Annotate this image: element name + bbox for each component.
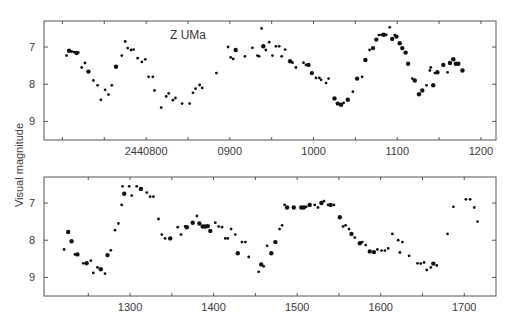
- data-point: [280, 55, 283, 58]
- data-point: [261, 44, 265, 48]
- bottom-data-points: [63, 185, 479, 275]
- data-point: [147, 75, 150, 78]
- data-point: [406, 62, 410, 66]
- data-point: [266, 244, 269, 247]
- data-point: [86, 69, 90, 73]
- data-point: [164, 237, 167, 240]
- data-point: [448, 61, 452, 65]
- data-point: [257, 270, 260, 273]
- data-point: [325, 82, 328, 85]
- data-point: [141, 61, 144, 64]
- data-point: [160, 233, 163, 236]
- data-point: [284, 48, 287, 51]
- data-point: [305, 205, 308, 208]
- data-point: [317, 206, 320, 209]
- data-point: [401, 241, 404, 244]
- data-point: [104, 272, 107, 275]
- data-point: [353, 236, 356, 239]
- bottom-panel: 13001400150016001700789: [29, 177, 496, 313]
- data-point: [105, 253, 109, 257]
- data-point: [139, 187, 143, 191]
- light-curve-chart: Visual magnitude Z UMa 24408000900100011…: [0, 0, 512, 325]
- data-point: [100, 98, 103, 101]
- data-point: [348, 228, 351, 231]
- data-point: [229, 56, 232, 59]
- data-point: [167, 92, 170, 95]
- data-point: [397, 239, 400, 242]
- data-point: [342, 225, 345, 228]
- data-point: [342, 101, 345, 104]
- data-point: [371, 46, 375, 50]
- x-tick-label: 1400: [201, 301, 225, 313]
- data-point: [349, 232, 353, 236]
- data-point: [465, 198, 468, 201]
- data-point: [241, 241, 244, 244]
- data-point: [431, 83, 435, 87]
- data-point: [377, 34, 380, 37]
- data-point: [355, 76, 359, 80]
- data-point: [283, 204, 286, 207]
- data-point: [278, 228, 281, 231]
- data-point: [469, 198, 472, 201]
- data-point: [114, 229, 117, 232]
- y-tick-label: 8: [29, 78, 35, 90]
- data-point: [188, 102, 191, 105]
- data-point: [435, 264, 438, 267]
- data-point: [194, 87, 197, 90]
- data-point: [380, 249, 383, 252]
- data-point: [376, 248, 379, 251]
- data-point: [226, 237, 229, 240]
- data-point: [385, 33, 388, 36]
- data-point: [151, 75, 154, 78]
- data-point: [372, 250, 376, 254]
- data-point: [221, 226, 224, 229]
- data-point: [258, 55, 261, 58]
- data-point: [344, 224, 347, 227]
- data-point: [107, 93, 110, 96]
- x-tick-label: 1200: [469, 145, 493, 157]
- data-point: [181, 102, 184, 105]
- data-point: [419, 262, 422, 265]
- data-point: [157, 218, 160, 221]
- x-tick-label: 1000: [301, 145, 325, 157]
- data-point: [333, 204, 336, 207]
- data-point: [476, 220, 479, 223]
- data-point: [269, 251, 273, 255]
- data-point: [417, 92, 421, 96]
- data-point: [191, 221, 195, 225]
- data-point: [234, 48, 238, 52]
- data-point: [104, 88, 107, 91]
- data-point: [452, 205, 455, 208]
- data-point: [271, 54, 274, 57]
- data-point: [114, 65, 118, 69]
- data-point: [185, 225, 189, 229]
- data-point: [313, 204, 316, 207]
- data-point: [122, 192, 126, 196]
- data-point: [391, 233, 394, 236]
- data-point: [364, 244, 367, 247]
- data-point: [136, 57, 139, 60]
- data-point: [196, 215, 199, 218]
- y-tick-label: 9: [29, 271, 35, 283]
- data-point: [120, 54, 123, 57]
- data-point: [262, 265, 265, 268]
- data-point: [320, 78, 323, 81]
- data-point: [291, 61, 294, 64]
- data-point: [174, 97, 177, 100]
- data-point: [84, 62, 87, 65]
- data-point: [109, 249, 112, 252]
- data-point: [361, 75, 364, 78]
- data-point: [135, 185, 138, 188]
- data-point: [227, 46, 230, 49]
- data-point: [70, 50, 73, 53]
- y-axis-label: Visual magnitude: [13, 123, 25, 207]
- data-point: [368, 249, 372, 253]
- data-point: [96, 266, 99, 269]
- data-point: [473, 206, 476, 209]
- data-point: [126, 47, 129, 50]
- data-point: [441, 63, 445, 67]
- data-point: [260, 27, 263, 30]
- x-tick-label: 1500: [285, 301, 309, 313]
- data-point: [120, 204, 123, 207]
- data-point: [338, 215, 342, 219]
